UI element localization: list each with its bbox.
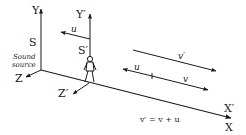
wave-speed-arrow [152,76,208,90]
observer-frame-label: S′ [78,44,89,57]
doppler-frame-diagram: Y S Sound source Z X Y′ u S′ Z′ X′ v′ u … [0,0,246,135]
z-prime-axis-label: Z′ [58,87,69,100]
wave-speed-label: v [183,74,188,84]
x-prime-axis-label: X′ [224,102,235,115]
z-axis [26,70,41,77]
z-prime-axis [73,83,89,94]
sound-source-label-line1: Sound [13,53,36,61]
velocity-u-label: u [134,62,140,72]
observer-person-icon [84,56,96,82]
x-axis-label: X [225,121,233,134]
y-prime-axis-label: Y′ [75,8,86,21]
observer-velocity-label: u [71,24,77,34]
z-axis-label: Z [15,72,23,85]
source-frame-label: S [29,36,37,49]
sound-source-label-line2: source [12,61,36,69]
relative-wave-speed-label: v′ [178,51,185,61]
x-axis [41,70,231,118]
relative-wave-speed-arrow [133,50,216,71]
y-axis-label: Y [31,4,40,17]
velocity-addition-equation: v′ = v + u [139,115,180,124]
